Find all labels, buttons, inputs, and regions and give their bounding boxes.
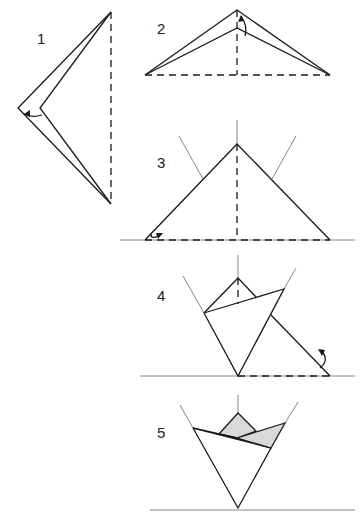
step-5-diagram (150, 395, 355, 510)
step-1-diagram (18, 12, 111, 204)
step-4-diagram (140, 255, 355, 376)
step-number-2: 2 (157, 20, 165, 37)
folding-diagram (0, 0, 360, 527)
step-2-diagram (145, 10, 330, 75)
step-number-4: 4 (157, 287, 165, 304)
step-3-diagram (120, 120, 355, 240)
step-number-1: 1 (37, 30, 45, 47)
step-number-3: 3 (157, 154, 165, 171)
step-number-5: 5 (157, 424, 165, 441)
